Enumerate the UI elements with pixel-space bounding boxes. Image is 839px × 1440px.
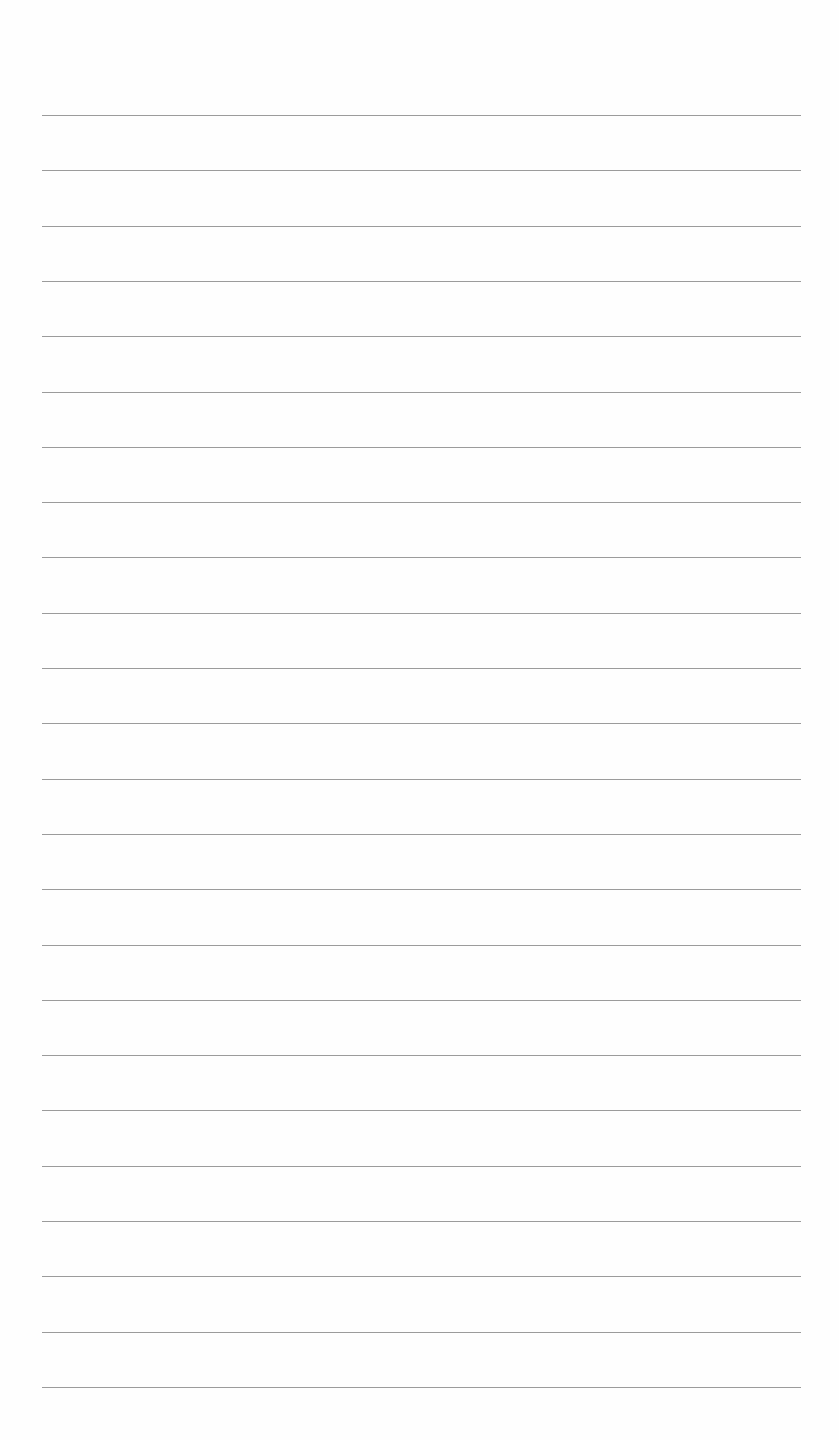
ruled-line	[42, 1166, 801, 1167]
ruled-line	[42, 779, 801, 780]
ruled-line	[42, 336, 801, 337]
ruled-line	[42, 170, 801, 171]
ruled-line	[42, 1387, 801, 1388]
ruled-line	[42, 1000, 801, 1001]
ruled-line	[42, 392, 801, 393]
ruled-line	[42, 226, 801, 227]
ruled-line	[42, 945, 801, 946]
lined-paper-page	[0, 0, 839, 1440]
ruled-line	[42, 1110, 801, 1111]
ruled-line	[42, 723, 801, 724]
ruled-line	[42, 502, 801, 503]
ruled-line	[42, 1055, 801, 1056]
ruled-line	[42, 1276, 801, 1277]
ruled-line	[42, 889, 801, 890]
ruled-line	[42, 447, 801, 448]
ruled-line	[42, 557, 801, 558]
ruled-line	[42, 668, 801, 669]
ruled-line	[42, 1221, 801, 1222]
ruled-line	[42, 281, 801, 282]
ruled-line	[42, 115, 801, 116]
ruled-line	[42, 613, 801, 614]
ruled-line	[42, 1332, 801, 1333]
ruled-line	[42, 834, 801, 835]
